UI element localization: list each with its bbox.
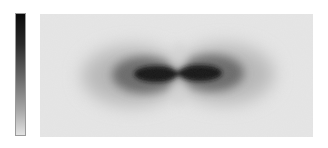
colorbar-gradient: [16, 14, 25, 135]
colorbar: [15, 13, 26, 136]
heatmap-image: [40, 14, 313, 137]
heatmap-plot: [40, 14, 313, 137]
